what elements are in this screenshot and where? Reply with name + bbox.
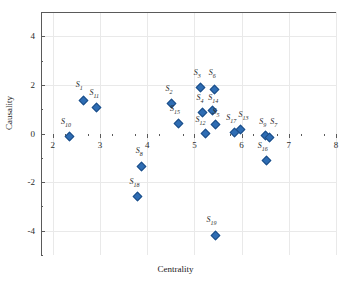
gridline-horizontal xyxy=(41,182,336,183)
y-axis-tick xyxy=(41,134,45,135)
data-point-label: S2 xyxy=(165,84,172,95)
y-axis-minor-tick xyxy=(41,255,43,256)
x-axis-tick xyxy=(336,134,337,138)
x-axis-tick-label: 2 xyxy=(51,140,56,150)
data-point-label: S18 xyxy=(129,177,139,188)
data-point-label: S17 xyxy=(226,113,236,124)
data-point-label: S7 xyxy=(270,117,277,128)
x-axis-tick-label: 5 xyxy=(192,140,197,150)
x-axis-line xyxy=(41,12,336,13)
x-axis-minor-tick xyxy=(301,134,302,136)
x-axis-minor-tick xyxy=(277,134,278,136)
gridline-horizontal xyxy=(41,85,336,86)
data-point[interactable] xyxy=(173,119,183,129)
y-axis-tick-label: 2 xyxy=(15,80,35,90)
y-axis-minor-tick xyxy=(41,12,43,13)
data-point[interactable] xyxy=(201,129,211,139)
data-point-label: S19 xyxy=(206,215,216,226)
scatter-chart: S1S11S10S8S18S2S15S3S6S4S14S12S5S17S13S9… xyxy=(0,0,351,289)
x-axis-minor-tick xyxy=(159,134,160,136)
plot-area: S1S11S10S8S18S2S15S3S6S4S14S12S5S17S13S9… xyxy=(41,12,336,255)
data-point[interactable] xyxy=(132,192,142,202)
x-axis-tick xyxy=(147,134,148,138)
data-point-label: S4 xyxy=(197,93,204,104)
data-point[interactable] xyxy=(137,161,147,171)
x-axis-tick xyxy=(53,134,54,138)
data-point-label: S11 xyxy=(90,88,100,99)
x-axis-tick-label: 7 xyxy=(287,140,292,150)
data-point[interactable] xyxy=(65,131,75,141)
x-axis-tick-label: 6 xyxy=(239,140,244,150)
x-axis-minor-tick xyxy=(183,134,184,136)
x-axis-tick-label: 3 xyxy=(98,140,103,150)
x-axis-minor-tick xyxy=(253,134,254,136)
y-axis-tick xyxy=(41,231,45,232)
data-point-label: S13 xyxy=(238,110,248,121)
data-point-label: S15 xyxy=(170,104,180,115)
data-point-label: S16 xyxy=(258,141,268,152)
data-point-label: S1 xyxy=(76,80,83,91)
x-axis-tick-label: 8 xyxy=(334,140,339,150)
x-axis-tick xyxy=(194,134,195,138)
data-point-label: S3 xyxy=(194,68,201,79)
x-axis-minor-tick xyxy=(88,134,89,136)
x-axis-tick xyxy=(100,134,101,138)
data-point-label: S12 xyxy=(196,115,206,126)
x-axis-title: Centrality xyxy=(0,264,351,274)
gridline-horizontal xyxy=(41,36,336,37)
y-axis-tick xyxy=(41,85,45,86)
y-axis-minor-tick xyxy=(41,109,43,110)
gridline-horizontal xyxy=(41,231,336,232)
data-point-label: S14 xyxy=(208,93,218,104)
y-axis-minor-tick xyxy=(41,206,43,207)
y-axis-tick-label: 4 xyxy=(15,31,35,41)
data-point-label: S6 xyxy=(209,68,216,79)
x-axis-minor-tick xyxy=(324,134,325,136)
data-point[interactable] xyxy=(78,95,88,105)
data-point[interactable] xyxy=(195,82,205,92)
data-point-label: S9 xyxy=(259,117,266,128)
y-axis-title: Causality xyxy=(4,58,14,168)
data-point-label: S8 xyxy=(136,146,143,157)
data-point-label: S5 xyxy=(213,107,220,118)
y-axis-tick-label: -2 xyxy=(15,177,35,187)
y-axis-tick xyxy=(41,182,45,183)
x-axis-minor-tick xyxy=(112,134,113,136)
y-axis-tick xyxy=(41,36,45,37)
y-axis-tick-label: 0 xyxy=(15,129,35,139)
x-axis-tick xyxy=(289,134,290,138)
y-axis-minor-tick xyxy=(41,158,43,159)
data-point[interactable] xyxy=(211,120,221,130)
x-axis-tick xyxy=(242,134,243,138)
x-axis-tick-label: 4 xyxy=(145,140,150,150)
y-axis-minor-tick xyxy=(41,61,43,62)
x-axis-minor-tick xyxy=(135,134,136,136)
data-point-label: S10 xyxy=(61,117,71,128)
y-axis-tick-label: -4 xyxy=(15,226,35,236)
data-point[interactable] xyxy=(262,155,272,165)
